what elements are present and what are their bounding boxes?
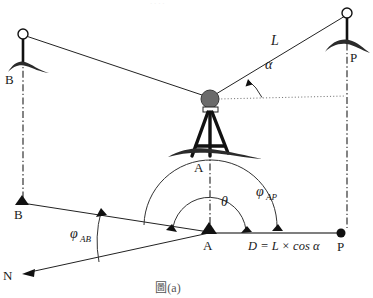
label-north: N xyxy=(3,268,13,283)
horizontal-line-a-to-b xyxy=(22,203,209,232)
top-cutoff-text-artifact: · · · · xyxy=(150,0,165,8)
theta-arrowhead-right xyxy=(241,226,252,233)
label-azimuth-ap-symbol: φ xyxy=(256,184,264,199)
sight-line-to-b xyxy=(26,36,205,96)
phi-ab-angle-arc xyxy=(97,212,101,262)
label-point-a-lower: A xyxy=(203,238,213,253)
control-point-marker-b xyxy=(15,195,29,205)
phi-ap-arrowhead xyxy=(272,224,283,231)
label-instrument-station-a: A xyxy=(194,160,204,175)
target-b-upper xyxy=(8,29,49,73)
survey-diagram-figure: · · · · B P xyxy=(0,0,373,298)
target-p-circle xyxy=(342,8,352,18)
label-point-b-lower: B xyxy=(14,207,23,222)
target-b-circle xyxy=(18,29,28,39)
theodolite-instrument xyxy=(168,90,262,159)
north-line-from-a xyxy=(30,233,209,272)
label-vertical-angle-alpha: α xyxy=(265,57,273,72)
label-azimuth-ap-subscript: AP xyxy=(265,192,277,202)
label-azimuth-ab-subscript: AB xyxy=(79,234,91,244)
label-horizontal-distance-formula: D = L × cos α xyxy=(247,239,320,253)
label-horizontal-angle-theta: θ xyxy=(221,194,228,209)
horizontal-reference-line xyxy=(218,96,346,99)
label-azimuth-ab: φ AB xyxy=(70,226,91,244)
sight-line-to-p xyxy=(216,16,345,94)
terrain-mark-b xyxy=(8,61,49,73)
north-arrowhead xyxy=(22,269,35,277)
terrain-mark-a xyxy=(168,148,262,159)
diagram-canvas: · · · · B P xyxy=(0,0,373,298)
label-azimuth-ap: φ AP xyxy=(256,184,277,202)
point-marker-p xyxy=(337,229,346,238)
label-slope-distance-L: L xyxy=(270,33,279,48)
instrument-head xyxy=(201,90,219,108)
label-azimuth-ab-symbol: φ xyxy=(70,226,78,241)
control-point-marker-a xyxy=(201,222,217,234)
label-target-b-upper: B xyxy=(5,72,14,87)
label-target-p-upper: P xyxy=(350,50,357,65)
label-point-p-lower: P xyxy=(337,239,344,254)
figure-caption: 圖(a) xyxy=(155,281,180,295)
